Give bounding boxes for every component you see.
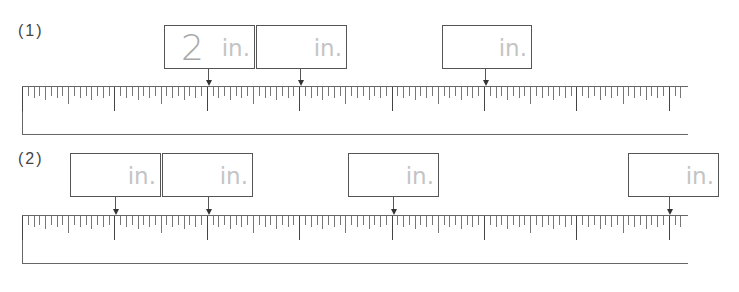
- subdivision-tick: [155, 216, 156, 225]
- subdivision-tick: [420, 216, 421, 225]
- answer-box[interactable]: in.: [442, 25, 532, 69]
- subdivision-tick: [178, 216, 179, 225]
- subdivision-tick: [571, 216, 572, 225]
- subdivision-tick: [143, 87, 144, 96]
- subdivision-tick: [409, 216, 410, 225]
- subdivision-tick: [455, 216, 456, 225]
- subdivision-tick: [432, 216, 433, 225]
- subdivision-tick: [490, 87, 491, 96]
- subdivision-tick: [461, 216, 462, 229]
- inch-tick: [207, 216, 208, 240]
- subdivision-tick: [467, 87, 468, 96]
- inch-tick: [22, 216, 23, 240]
- answer-box[interactable]: in.: [628, 153, 719, 197]
- arrow-down-icon: [391, 209, 397, 215]
- subdivision-tick: [253, 87, 254, 104]
- subdivision-tick: [328, 216, 329, 225]
- inch-tick: [576, 87, 577, 111]
- subdivision-tick: [213, 87, 214, 96]
- subdivision-tick: [282, 87, 283, 96]
- subdivision-tick: [62, 216, 63, 225]
- subdivision-tick: [305, 87, 306, 96]
- subdivision-tick: [496, 87, 497, 98]
- inch-tick: [114, 87, 115, 111]
- subdivision-tick: [351, 87, 352, 96]
- subdivision-tick: [34, 87, 35, 98]
- subdivision-tick: [276, 87, 277, 100]
- inch-tick: [114, 216, 115, 240]
- subdivision-tick: [201, 216, 202, 225]
- subdivision-tick: [51, 87, 52, 96]
- subdivision-tick: [455, 87, 456, 96]
- subdivision-tick: [120, 87, 121, 96]
- subdivision-tick: [126, 87, 127, 98]
- subdivision-tick: [524, 87, 525, 96]
- subdivision-tick: [201, 87, 202, 96]
- subdivision-tick: [611, 87, 612, 98]
- inch-tick: [669, 87, 670, 111]
- subdivision-tick: [91, 216, 92, 229]
- subdivision-tick: [582, 216, 583, 225]
- subdivision-tick: [478, 216, 479, 225]
- subdivision-tick: [588, 216, 589, 227]
- subdivision-tick: [138, 216, 139, 229]
- subdivision-tick: [444, 87, 445, 96]
- subdivision-tick: [189, 216, 190, 225]
- subdivision-tick: [553, 87, 554, 100]
- subdivision-tick: [97, 216, 98, 225]
- subdivision-tick: [380, 87, 381, 98]
- answer-box[interactable]: in.: [348, 153, 439, 197]
- subdivision-tick: [143, 216, 144, 225]
- answer-box[interactable]: in.: [256, 25, 347, 69]
- answer-box[interactable]: 2in.: [164, 25, 255, 69]
- subdivision-tick: [86, 216, 87, 225]
- subdivision-tick: [34, 216, 35, 227]
- subdivision-tick: [282, 216, 283, 225]
- subdivision-tick: [432, 87, 433, 96]
- answer-box[interactable]: in.: [70, 153, 161, 197]
- subdivision-tick: [97, 87, 98, 96]
- subdivision-tick: [311, 216, 312, 227]
- subdivision-tick: [213, 216, 214, 225]
- subdivision-tick: [623, 87, 624, 104]
- problem-label: (2): [18, 150, 44, 168]
- problem-label: (1): [18, 22, 44, 40]
- subdivision-tick: [126, 216, 127, 227]
- subdivision-tick: [501, 216, 502, 225]
- inch-tick: [576, 216, 577, 240]
- subdivision-tick: [397, 216, 398, 225]
- answer-box[interactable]: in.: [162, 153, 253, 197]
- subdivision-tick: [374, 87, 375, 96]
- subdivision-tick: [559, 216, 560, 225]
- subdivision-tick: [172, 87, 173, 98]
- subdivision-tick: [426, 216, 427, 227]
- subdivision-tick: [293, 87, 294, 96]
- subdivision-tick: [409, 87, 410, 96]
- subdivision-tick: [623, 216, 624, 233]
- subdivision-tick: [640, 87, 641, 96]
- subdivision-tick: [57, 216, 58, 227]
- subdivision-tick: [444, 216, 445, 225]
- inch-tick: [207, 87, 208, 111]
- subdivision-tick: [218, 87, 219, 98]
- subdivision-tick: [241, 87, 242, 98]
- subdivision-tick: [247, 216, 248, 225]
- subdivision-tick: [611, 216, 612, 227]
- inch-tick: [299, 216, 300, 240]
- subdivision-tick: [103, 216, 104, 227]
- subdivision-tick: [161, 216, 162, 233]
- subdivision-tick: [259, 87, 260, 96]
- pointer-line: [393, 197, 394, 209]
- subdivision-tick: [184, 87, 185, 100]
- subdivision-tick: [39, 87, 40, 96]
- subdivision-tick: [270, 216, 271, 225]
- subdivision-tick: [605, 87, 606, 96]
- subdivision-tick: [507, 87, 508, 100]
- subdivision-tick: [172, 216, 173, 227]
- subdivision-tick: [680, 87, 681, 98]
- subdivision-tick: [571, 87, 572, 96]
- subdivision-tick: [334, 87, 335, 98]
- subdivision-tick: [559, 87, 560, 96]
- pointer-line: [208, 197, 209, 209]
- subdivision-tick: [380, 216, 381, 227]
